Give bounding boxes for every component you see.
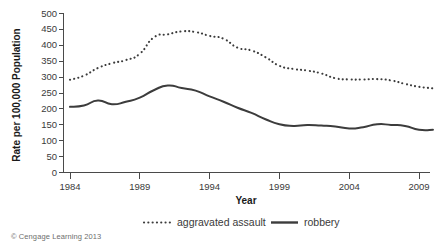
copyright-credit: © Cengage Learning 2013 — [11, 232, 101, 241]
x-tick-label: 1999 — [269, 181, 290, 192]
y-axis-title: Rate per 100,000 Population — [11, 28, 22, 161]
y-tick-label: 100 — [41, 135, 57, 146]
x-axis-ticks — [70, 173, 419, 180]
y-tick-label: 50 — [46, 151, 57, 162]
x-axis-title: Year — [235, 195, 256, 206]
x-tick-label: 2004 — [339, 181, 360, 192]
series-line-robbery — [70, 85, 433, 130]
chart-legend: aggravated assault robbery — [144, 216, 340, 228]
legend-label-aggravated-assault[interactable]: aggravated assault — [177, 216, 266, 228]
y-tick-label: 500 — [41, 8, 57, 19]
y-tick-label: 150 — [41, 119, 57, 130]
line-chart: Rate per 100,000 Population 500 450 400 … — [0, 0, 441, 248]
x-tick-label: 1994 — [199, 181, 220, 192]
y-tick-label: 350 — [41, 55, 57, 66]
y-tick-label: 300 — [41, 71, 57, 82]
y-tick-label: 450 — [41, 23, 57, 34]
y-tick-label: 0 — [52, 167, 57, 178]
y-tick-label: 400 — [41, 39, 57, 50]
y-tick-label: 200 — [41, 103, 57, 114]
chart-figure: Rate per 100,000 Population 500 450 400 … — [0, 0, 441, 248]
y-axis-ticks — [59, 14, 64, 173]
legend-label-robbery[interactable]: robbery — [304, 216, 340, 228]
y-tick-label: 250 — [41, 87, 57, 98]
x-tick-label: 1984 — [59, 181, 80, 192]
x-tick-label: 2009 — [408, 181, 429, 192]
x-axis-tick-labels: 1984 1989 1994 1999 2004 2009 — [59, 181, 429, 192]
y-axis-tick-labels: 500 450 400 350 300 250 200 150 100 50 0 — [41, 8, 57, 178]
series-line-aggravated-assault — [70, 31, 433, 88]
x-tick-label: 1989 — [129, 181, 150, 192]
